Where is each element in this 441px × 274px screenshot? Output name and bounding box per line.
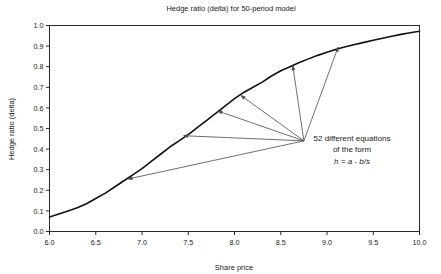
y-tick-label: 0.3	[34, 165, 44, 174]
y-tick-label: 0.0	[34, 227, 44, 236]
y-tick-label: 0.5	[34, 124, 44, 133]
x-tick-label: 7.0	[137, 238, 147, 247]
x-tick-label: 9.0	[322, 238, 332, 247]
y-tick-label: 0.1	[34, 207, 44, 216]
plot-frame	[50, 26, 420, 232]
annotation-text-block: 52 different equations of the form h = a…	[314, 134, 391, 166]
y-tick-label: 1.0	[34, 21, 44, 30]
leader-line	[293, 66, 304, 141]
annotation-formula: h = a - b/s	[334, 157, 370, 166]
x-tick-label: 6.5	[91, 238, 101, 247]
leader-line	[184, 136, 304, 141]
x-tick-label: 8.0	[230, 238, 240, 247]
y-tick-label: 0.8	[34, 62, 44, 71]
annotation-leader-arrows	[128, 47, 338, 180]
annotation-line-2: of the form	[333, 145, 372, 154]
leader-line	[241, 96, 304, 141]
leader-line	[218, 111, 304, 141]
y-axis-title: Hedge ratio (delta)	[7, 97, 16, 160]
leader-arrowhead	[241, 96, 245, 100]
x-tick-label: 9.5	[368, 238, 378, 247]
leader-line	[304, 47, 338, 141]
chart-figure: Hedge ratio (delta) for 50-period model …	[0, 0, 441, 274]
x-tick-label: 7.5	[183, 238, 193, 247]
x-axis-title: Share price	[215, 263, 253, 272]
chart-title: Hedge ratio (delta) for 50-period model	[166, 4, 296, 13]
x-axis-ticks: 6.06.57.07.58.08.59.09.510.0	[45, 232, 427, 247]
y-tick-label: 0.4	[34, 145, 44, 154]
annotation-line-1: 52 different equations	[314, 134, 391, 143]
hedge-ratio-chart: Hedge ratio (delta) for 50-period model …	[0, 0, 441, 274]
x-tick-label: 10.0	[413, 238, 427, 247]
x-tick-label: 8.5	[276, 238, 286, 247]
y-tick-label: 0.2	[34, 186, 44, 195]
leader-arrowhead	[218, 111, 223, 114]
y-tick-label: 0.6	[34, 104, 44, 113]
x-tick-label: 6.0	[45, 238, 55, 247]
y-axis-ticks: 0.00.10.20.30.40.50.60.70.80.91.0	[34, 21, 50, 236]
y-tick-label: 0.7	[34, 83, 44, 92]
y-tick-label: 0.9	[34, 42, 44, 51]
hedge-ratio-curve	[50, 31, 420, 217]
